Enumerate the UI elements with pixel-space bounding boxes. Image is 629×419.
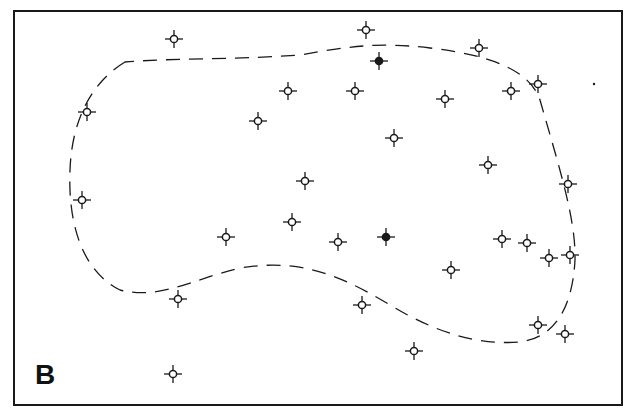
- open-marker-icon: [164, 365, 182, 383]
- open-marker-icon: [436, 90, 454, 108]
- open-marker-icon: [165, 30, 183, 48]
- open-marker-icon: [78, 103, 96, 121]
- open-marker-icon: [283, 213, 301, 231]
- open-marker-icon: [357, 21, 375, 39]
- open-marker-icon: [217, 228, 235, 246]
- open-marker-icon: [329, 233, 347, 251]
- open-marker-icon: [169, 290, 187, 308]
- panel-label: B: [35, 361, 55, 389]
- open-marker-icon: [442, 261, 460, 279]
- open-marker-icon: [296, 172, 314, 190]
- open-marker-icon: [479, 156, 497, 174]
- dashed-boundary: [70, 45, 575, 342]
- filled-marker-icon: [377, 228, 395, 246]
- open-marker-icon: [385, 129, 403, 147]
- stray-dot: [593, 83, 595, 85]
- open-marker-icon: [346, 82, 364, 100]
- open-marker-icon: [502, 82, 520, 100]
- open-marker-icon: [540, 249, 558, 267]
- open-marker-icon: [249, 112, 267, 130]
- open-marker-icon: [470, 39, 488, 57]
- open-marker-icon: [518, 234, 536, 252]
- open-marker-icon: [529, 316, 547, 334]
- open-marker-icon: [279, 82, 297, 100]
- filled-marker-icon: [370, 52, 388, 70]
- scatter-map: [0, 0, 629, 419]
- open-marker-icon: [353, 296, 371, 314]
- open-marker-icon: [556, 325, 574, 343]
- open-marker-icon: [405, 342, 423, 360]
- open-marker-icon: [73, 191, 91, 209]
- open-marker-icon: [529, 75, 547, 93]
- open-marker-icon: [493, 230, 511, 248]
- open-marker-icon: [561, 246, 579, 264]
- marker-group: [73, 21, 579, 383]
